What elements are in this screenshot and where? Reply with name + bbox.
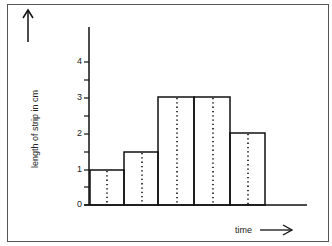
- y-tick-2: 2: [72, 128, 82, 138]
- bar-4: [194, 97, 230, 205]
- bar-2: [124, 152, 158, 205]
- y-tick-0: 0: [72, 199, 82, 209]
- right-arrow-icon: [260, 225, 292, 235]
- bar-1: [90, 170, 124, 205]
- y-axis-label: length of strip in cm: [30, 74, 40, 184]
- y-tick-4: 4: [72, 56, 82, 66]
- y-tick-1: 1: [72, 164, 82, 174]
- x-axis-label: time: [235, 225, 252, 235]
- up-arrow-icon: [23, 10, 33, 42]
- y-tick-3: 3: [72, 92, 82, 102]
- bar-3: [158, 97, 194, 205]
- chart-plot: [0, 0, 332, 246]
